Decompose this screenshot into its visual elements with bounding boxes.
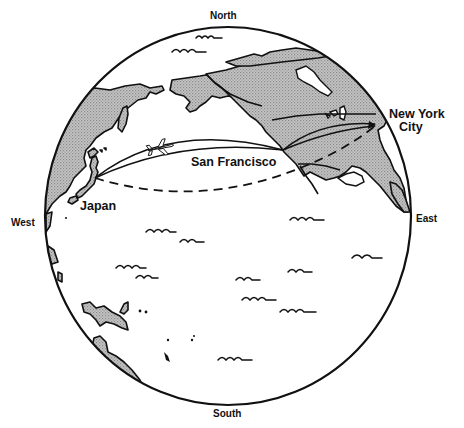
landmass-australia	[90, 336, 144, 392]
label-san-francisco: San Francisco	[191, 156, 276, 169]
compass-south: South	[213, 409, 241, 419]
label-new-york: New York	[389, 108, 445, 121]
island	[193, 335, 195, 337]
label-japan: Japan	[80, 200, 116, 213]
compass-north: North	[210, 11, 237, 21]
island	[145, 311, 148, 314]
island	[167, 339, 169, 341]
compass-west: West	[11, 218, 35, 228]
landmass-new-guinea	[82, 302, 128, 330]
landmass-new-britain	[120, 302, 128, 314]
compass-east: East	[416, 214, 437, 224]
island	[65, 217, 67, 219]
landmass-kuril	[100, 148, 106, 152]
label-new-york-city: City	[399, 121, 423, 134]
island	[139, 310, 142, 313]
island	[164, 352, 170, 362]
landmass-kyushu	[68, 196, 78, 204]
island	[191, 339, 193, 341]
globe-map	[0, 0, 464, 428]
